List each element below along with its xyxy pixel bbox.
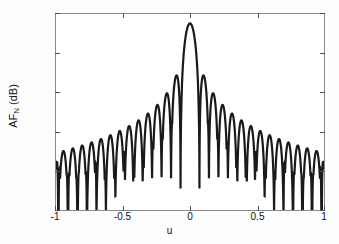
xtick-label-0: 0 bbox=[176, 212, 204, 222]
plot-area bbox=[55, 13, 325, 211]
xtick-mark bbox=[190, 13, 191, 18]
y-axis-label-main: AF bbox=[7, 114, 19, 128]
y-axis-label-units: (dB) bbox=[7, 84, 19, 108]
ytick-mark bbox=[55, 132, 60, 133]
ytick-mark bbox=[55, 171, 60, 172]
y-axis-label-subscript: N bbox=[12, 108, 21, 114]
y-axis-label: AFN (dB) bbox=[8, 46, 20, 166]
xtick-label-05: 0.5 bbox=[240, 212, 275, 222]
curve-path bbox=[56, 23, 324, 210]
ytick-mark bbox=[55, 92, 60, 93]
ytick-mark bbox=[320, 13, 325, 14]
xtick-label-1: 1 bbox=[310, 212, 338, 222]
x-axis-label: u bbox=[0, 226, 339, 236]
ytick-mark bbox=[55, 13, 60, 14]
array-factor-curve bbox=[56, 14, 324, 210]
xtick-mark bbox=[123, 13, 124, 18]
xtick-mark bbox=[258, 13, 259, 18]
ytick-mark bbox=[320, 92, 325, 93]
array-factor-figure: 0 -10 -20 -30 -40 -50 -1 -0.5 0 0.5 1 u … bbox=[0, 0, 339, 244]
ytick-mark bbox=[320, 171, 325, 172]
ytick-mark bbox=[320, 53, 325, 54]
xtick-label-m05: -0.5 bbox=[105, 212, 140, 222]
xtick-label-m1: -1 bbox=[41, 212, 69, 222]
ytick-mark bbox=[320, 132, 325, 133]
ytick-mark bbox=[55, 53, 60, 54]
